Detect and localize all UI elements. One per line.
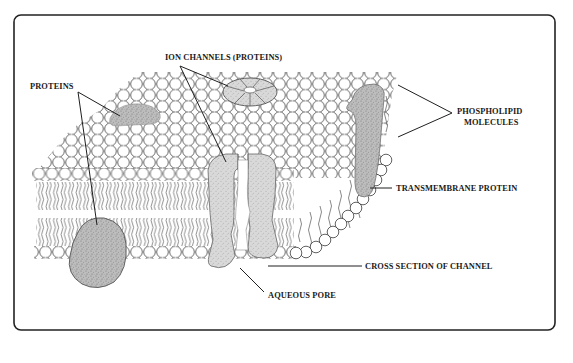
label-proteins: PROTEINS [30,82,74,91]
label-aqueous-pore: AQUEOUS PORE [268,291,336,300]
label-cross-section: CROSS SECTION OF CHANNEL [365,262,493,271]
label-phospholipid-line1: PHOSPHOLIPID [457,107,522,116]
label-phospholipid-line2: MOLECULES [464,118,519,127]
ion-channel-top-view [223,78,277,106]
label-transmembrane-protein: TRANSMEMBRANE PROTEIN [396,184,517,193]
label-ion-channels: ION CHANNELS (PROTEINS) [165,53,282,62]
cell-membrane-diagram: ION CHANNELS (PROTEINS) PROTEINS PHOSPHO… [0,0,573,363]
